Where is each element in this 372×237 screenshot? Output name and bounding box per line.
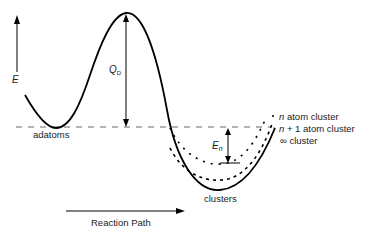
legend-marker-n-plus-1 <box>273 127 274 128</box>
legend-n-cluster: n atom cluster <box>279 112 339 122</box>
energy-curve-infinite-cluster <box>25 13 275 190</box>
adatoms-label: adatoms <box>33 130 69 140</box>
legend-marker-n <box>272 115 274 117</box>
energy-curve-n-plus-1-cluster <box>170 124 272 180</box>
legend-n1-text: + 1 atom cluster <box>284 123 355 134</box>
clusters-label: clusters <box>204 194 237 204</box>
energy-axis-label: E <box>12 75 19 85</box>
binding-energy-label: En <box>212 141 223 152</box>
barrier-label-subscript: D <box>117 70 121 76</box>
legend-n-plus-1-cluster: n + 1 atom cluster <box>279 124 355 134</box>
legend-inf-prefix: ∞ <box>280 135 287 146</box>
reaction-path-label: Reaction Path <box>91 218 151 228</box>
legend-inf-text: cluster <box>287 135 318 146</box>
barrier-height-arrow <box>123 14 129 127</box>
reaction-path-arrow <box>66 208 185 214</box>
legend-n-text: atom cluster <box>284 111 338 122</box>
energy-axis-arrow <box>14 15 20 72</box>
binding-energy-arrow <box>220 128 240 163</box>
legend-infinite-cluster: ∞ cluster <box>280 136 317 146</box>
binding-energy-subscript: n <box>219 145 223 152</box>
binding-energy-symbol: E <box>212 140 219 151</box>
barrier-label-symbol: Q <box>109 64 117 75</box>
barrier-label: QD <box>109 65 121 76</box>
